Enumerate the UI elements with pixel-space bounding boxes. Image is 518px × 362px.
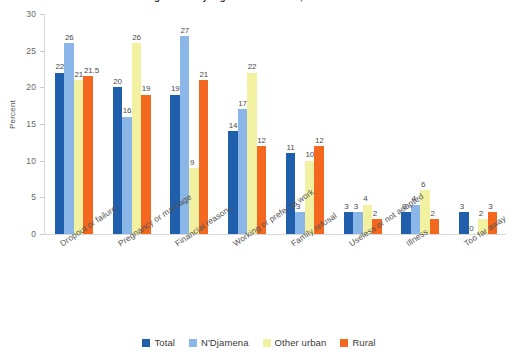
bar-value-label: 17 [238, 99, 247, 108]
bar[interactable] [238, 109, 248, 234]
legend-item[interactable]: Total [142, 337, 175, 348]
bar-value-label: 3 [488, 202, 492, 211]
y-tick-label: 25 [10, 46, 36, 56]
bar-value-label: 22 [248, 62, 257, 71]
bar-value-label: 12 [257, 136, 266, 145]
bar[interactable] [199, 80, 209, 234]
bar[interactable] [64, 43, 74, 234]
bar-value-label: 10 [305, 150, 314, 159]
legend-swatch [340, 339, 348, 347]
legend-label: Total [154, 337, 175, 348]
bar[interactable] [122, 117, 132, 234]
y-tick-label: 30 [10, 9, 36, 19]
bar[interactable] [228, 131, 238, 234]
legend-swatch [263, 339, 271, 347]
bar-value-label: 14 [229, 121, 238, 130]
bar-value-label: 2 [430, 209, 434, 218]
y-axis-title: Percent [8, 85, 17, 145]
bar[interactable] [74, 80, 84, 234]
bar-group: 22262121.5 [55, 14, 93, 234]
legend-item[interactable]: Other urban [263, 337, 327, 348]
x-axis-line [44, 234, 506, 235]
bar-value-label: 9 [190, 158, 194, 167]
bar-value-label: 2 [479, 209, 483, 218]
bar-group: 3023 [459, 14, 497, 234]
bar-value-label: 26 [65, 33, 74, 42]
bar-value-label: 19 [142, 84, 151, 93]
bar-value-label: 3 [354, 202, 358, 211]
bar[interactable] [83, 76, 93, 234]
legend-label: Other urban [275, 337, 327, 348]
bar-value-label: 6 [421, 180, 425, 189]
bar[interactable] [344, 212, 354, 234]
chart-title: Main reasons for not attending school by… [18, 0, 498, 2]
bar[interactable] [141, 95, 151, 234]
bar[interactable] [430, 219, 440, 234]
bar-value-label: 20 [113, 77, 122, 86]
bar-value-label: 11 [286, 143, 294, 152]
bar-chart: Main reasons for not attending school by… [0, 0, 518, 362]
legend-swatch [142, 339, 150, 347]
bar-value-label: 3 [460, 202, 464, 211]
y-tick-label: 5 [10, 192, 36, 202]
y-tick-label: 0 [10, 229, 36, 239]
legend-item[interactable]: N'Djamena [189, 337, 249, 348]
bar[interactable] [247, 73, 257, 234]
bar-value-label: 26 [132, 33, 141, 42]
bar-group: 20162619 [113, 14, 151, 234]
bar-value-label: 4 [363, 194, 367, 203]
legend-item[interactable]: Rural [340, 337, 375, 348]
y-tick-label: 10 [10, 156, 36, 166]
bar-value-label: 22 [55, 62, 64, 71]
legend-label: Rural [352, 337, 375, 348]
bar-value-label: 12 [315, 136, 324, 145]
legend-label: N'Djamena [201, 337, 249, 348]
bar[interactable] [132, 43, 142, 234]
bar-value-label: 3 [344, 202, 348, 211]
bar[interactable] [286, 153, 296, 234]
chart-legend: TotalN'DjamenaOther urbanRural [0, 337, 518, 348]
y-tick-label: 20 [10, 82, 36, 92]
bar-value-label: 19 [171, 84, 180, 93]
legend-swatch [189, 339, 197, 347]
bar[interactable] [401, 212, 411, 234]
bar-value-label: 21 [74, 70, 83, 79]
bar-value-label: 2 [373, 209, 377, 218]
bar-value-label: 21 [199, 70, 208, 79]
bar-group: 14172212 [228, 14, 266, 234]
y-tick-label: 15 [10, 119, 36, 129]
bar[interactable] [55, 73, 65, 234]
bar-group: 3342 [344, 14, 382, 234]
bar-value-label: 21.5 [84, 66, 99, 75]
bar-value-label: 27 [180, 26, 189, 35]
bar[interactable] [459, 212, 469, 234]
bar-value-label: 16 [123, 106, 132, 115]
plot-area: 22262121.5201626191927921141722121131012… [44, 14, 506, 234]
